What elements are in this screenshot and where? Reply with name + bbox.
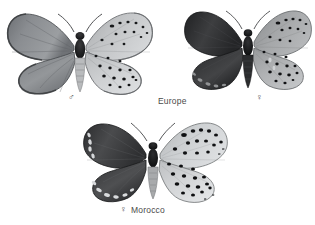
locality-label-morocco: Morocco bbox=[131, 205, 165, 215]
morocco-upperside-wings bbox=[84, 124, 146, 202]
head bbox=[244, 29, 253, 37]
locality-label-europe: Europe bbox=[158, 96, 187, 106]
female-upperside-wings bbox=[185, 12, 243, 90]
abdomen bbox=[243, 55, 253, 88]
specimen-male-europe-image bbox=[4, 6, 156, 102]
female-underside-wings bbox=[253, 11, 311, 90]
thorax bbox=[75, 39, 85, 59]
head bbox=[76, 32, 85, 40]
specimen-female-europe-image bbox=[182, 4, 314, 98]
abdomen bbox=[75, 58, 85, 92]
specimen-female-morocco bbox=[80, 118, 232, 208]
sex-symbol-male-specimen-1: ♂ bbox=[68, 92, 75, 102]
thorax bbox=[243, 36, 253, 56]
male-underside-wings bbox=[85, 13, 152, 94]
specimen-female-europe bbox=[182, 4, 314, 98]
sex-symbol-female-specimen-2: ♀ bbox=[256, 92, 263, 102]
butterfly-specimen-plate: ♂ Europe ♀ ♀ Morocco bbox=[0, 0, 315, 225]
abdomen bbox=[148, 167, 158, 199]
male-upperside-wings bbox=[8, 14, 75, 94]
specimen-male-europe bbox=[4, 6, 156, 102]
sex-symbol-female-specimen-3: ♀ bbox=[120, 204, 127, 214]
specimen-female-morocco-image bbox=[80, 118, 232, 208]
thorax bbox=[148, 149, 158, 168]
morocco-underside-wings bbox=[159, 123, 227, 202]
